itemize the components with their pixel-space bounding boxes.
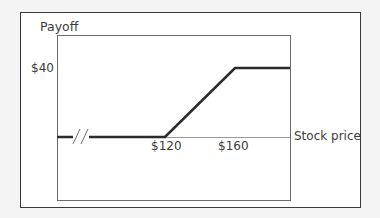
x-tick-160: $160 (218, 139, 249, 153)
x-axis-label: Stock price (294, 129, 361, 143)
plot-area (58, 36, 291, 201)
axis-break-icon (73, 129, 89, 144)
x-tick-120: $120 (151, 139, 182, 153)
y-tick-40: $40 (31, 61, 54, 75)
payoff-line (57, 68, 290, 137)
y-axis-label: Payoff (40, 19, 78, 34)
